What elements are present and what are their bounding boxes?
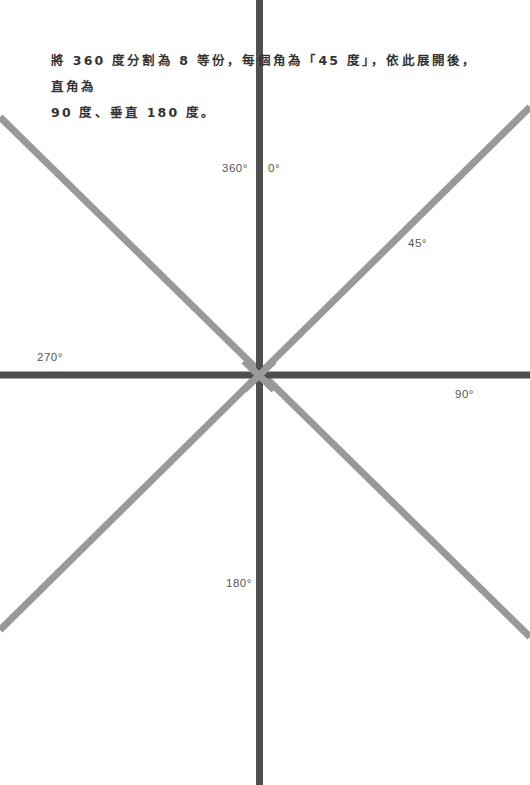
- label-180: 180°: [226, 577, 252, 589]
- label-0: 0°: [268, 162, 280, 174]
- caption-text: 將 360 度分割為 8 等份，每個角為「45 度」，依此展開後，直角為 90 …: [51, 48, 491, 126]
- caption-line-2: 90 度、垂直 180 度。: [51, 100, 491, 126]
- caption-line-1: 將 360 度分割為 8 等份，每個角為「45 度」，依此展開後，直角為: [51, 48, 491, 100]
- label-45: 45°: [408, 237, 427, 249]
- label-270: 270°: [37, 351, 63, 363]
- label-360: 360°: [222, 162, 248, 174]
- label-90: 90°: [455, 388, 474, 400]
